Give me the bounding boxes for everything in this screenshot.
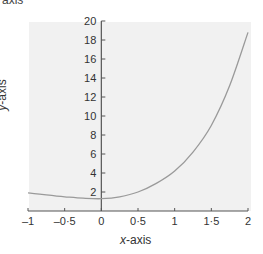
x-tick-label: 1·5 bbox=[203, 215, 219, 227]
y-tick-label: 10 bbox=[84, 110, 96, 122]
x-axis-label-rest: -axis bbox=[126, 233, 151, 247]
chart-plot: –1–0·500·511·522468101214161820 bbox=[0, 0, 263, 254]
y-tick-label: 4 bbox=[90, 167, 96, 179]
y-tick-label: 16 bbox=[84, 53, 96, 65]
y-tick-label: 14 bbox=[84, 72, 96, 84]
y-tick-label: 6 bbox=[90, 148, 96, 160]
y-tick-label: 12 bbox=[84, 91, 96, 103]
y-tick-label: 2 bbox=[90, 186, 96, 198]
x-tick-label: 2 bbox=[245, 215, 251, 227]
y-tick-label: 8 bbox=[90, 129, 96, 141]
y-axis-label-rest: -axis bbox=[0, 79, 9, 104]
y-tick-label: 20 bbox=[84, 15, 96, 27]
x-tick-label: 0·5 bbox=[130, 215, 146, 227]
plot-background bbox=[29, 22, 251, 211]
x-axis-label: x-axis bbox=[120, 233, 151, 247]
y-axis-label: y-axis bbox=[0, 79, 9, 110]
x-tick-label: 0 bbox=[98, 215, 104, 227]
x-tick-label: –1 bbox=[22, 215, 34, 227]
x-tick-label: 1 bbox=[172, 215, 178, 227]
y-axis-label-var: y bbox=[0, 105, 9, 111]
x-tick-label: –0·5 bbox=[54, 215, 76, 227]
y-tick-label: 18 bbox=[84, 34, 96, 46]
